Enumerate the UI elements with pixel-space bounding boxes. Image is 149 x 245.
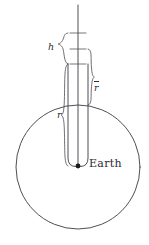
brace-r-bar bbox=[88, 49, 94, 105]
brace-r bbox=[61, 64, 68, 166]
label-r-text: r bbox=[57, 109, 62, 120]
label-r-bar-text: r bbox=[94, 81, 99, 92]
earth-center-dot bbox=[76, 164, 81, 169]
label-r-bar: r bbox=[94, 81, 99, 92]
label-h-text: h bbox=[48, 41, 54, 52]
label-earth: Earth bbox=[89, 158, 122, 169]
diagram-canvas bbox=[0, 0, 149, 245]
physics-diagram-earth-shaft: h r r Earth bbox=[0, 0, 149, 245]
label-earth-text: Earth bbox=[89, 157, 122, 170]
label-h: h bbox=[48, 42, 54, 52]
brace-h bbox=[58, 33, 68, 64]
label-r: r bbox=[57, 110, 62, 120]
